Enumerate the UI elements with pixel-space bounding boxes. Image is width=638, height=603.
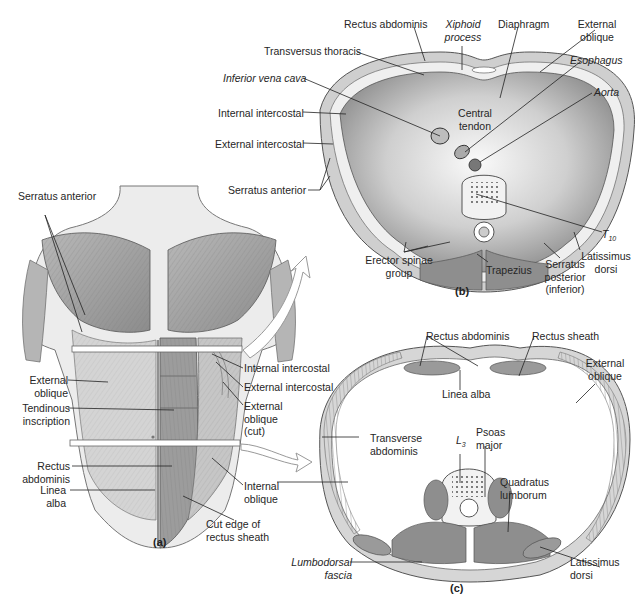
label-b-latissimus-dorsi: Latissimus dorsi — [580, 250, 632, 275]
label-b-aorta: Aorta — [594, 86, 619, 99]
panel-label-c: (c) — [450, 582, 463, 594]
label-a-tendinous-inscription: Tendinous inscription — [18, 402, 70, 427]
label-c-quadratus-lumborum: Quadratus lumborum — [500, 476, 556, 501]
label-c-l3-sub: 3 — [462, 441, 466, 448]
label-b-trapezius: Trapezius — [486, 264, 532, 277]
label-b-central-tendon: Central tendon — [453, 107, 497, 132]
label-b-t10: T10 — [602, 228, 616, 246]
label-c-transverse-abdominis: Transverse abdominis — [370, 432, 430, 457]
label-b-external-intercostal: External intercostal — [215, 138, 304, 151]
label-b-diaphragm: Diaphragm — [498, 18, 549, 31]
label-a-linea-alba: Linea alba — [24, 484, 66, 509]
label-b-erector-spinae-group: Erector spinae group — [364, 254, 434, 279]
label-b-esophagus: Esophagus — [570, 54, 623, 67]
label-a-cut-edge-rectus-sheath: Cut edge of rectus sheath — [206, 518, 276, 543]
label-a-external-oblique-cut: External oblique (cut) — [244, 400, 288, 438]
label-b-xiphoid-process: Xiphoid process — [442, 18, 484, 43]
label-b-internal-intercostal: Internal intercostal — [218, 107, 304, 120]
label-b-t10-sub: 10 — [608, 235, 616, 242]
label-c-rectus-sheath: Rectus sheath — [532, 330, 599, 343]
label-b-external-oblique: External oblique — [572, 18, 622, 43]
label-b-inferior-vena-cava: Inferior vena cava — [223, 72, 306, 85]
label-c-l3: L3 — [456, 434, 466, 452]
label-a-serratus-anterior: Serratus anterior — [18, 190, 96, 203]
label-b-transversus-thoracis: Transversus thoracis — [264, 45, 361, 58]
label-c-latissimus-dorsi: Latissimus dorsi — [570, 556, 622, 581]
label-b-serratus-anterior: Serratus anterior — [228, 184, 306, 197]
label-b-rectus-abdominis: Rectus abdominis — [344, 18, 427, 31]
anatomy-illustration — [0, 0, 638, 603]
label-a-external-intercostal: External intercostal — [244, 381, 333, 394]
label-c-linea-alba: Linea alba — [442, 388, 490, 401]
label-a-internal-intercostal: Internal intercostal — [244, 362, 330, 375]
panel-label-a: (a) — [153, 536, 166, 548]
label-c-lumbodorsal-fascia: Lumbodorsal fascia — [290, 556, 352, 581]
panel-label-b: (b) — [455, 285, 469, 297]
label-c-rectus-abdominis: Rectus abdominis — [426, 330, 509, 343]
label-a-rectus-abdominis: Rectus abdominis — [14, 460, 70, 485]
label-a-internal-oblique: Internal oblique — [244, 480, 284, 505]
label-c-external-oblique: External oblique — [580, 357, 630, 382]
label-c-psoas-major: Psoas major — [476, 426, 512, 451]
label-a-external-oblique: External oblique — [22, 374, 68, 399]
